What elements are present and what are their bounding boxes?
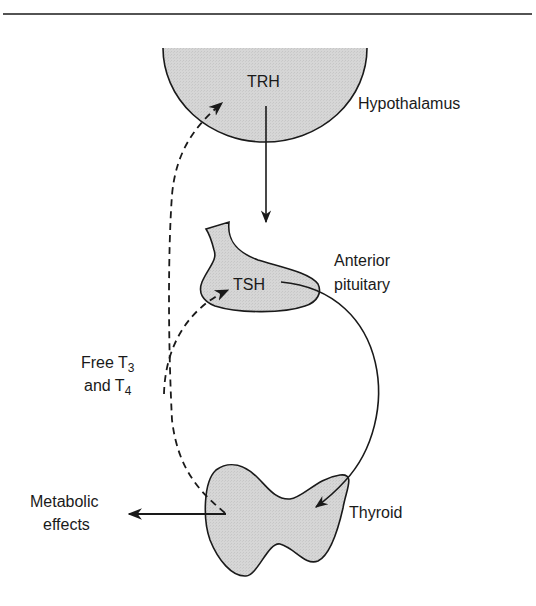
free-t3-label: Free T3 bbox=[81, 354, 135, 375]
pituitary-shape bbox=[201, 222, 320, 312]
thyroid-shape bbox=[205, 465, 349, 576]
trh-label: TRH bbox=[247, 73, 280, 90]
and-t4-label: and T4 bbox=[84, 377, 132, 398]
hypothalamus-label: Hypothalamus bbox=[358, 95, 460, 112]
tsh-label: TSH bbox=[233, 276, 265, 293]
anterior-label: Anterior bbox=[334, 252, 391, 269]
tsh-to-thyroid-arrow bbox=[281, 282, 379, 507]
effects-label: effects bbox=[43, 516, 90, 533]
hypothalamus-shape bbox=[163, 48, 367, 142]
thyroid-label: Thyroid bbox=[349, 504, 402, 521]
metabolic-label: Metabolic bbox=[30, 493, 98, 510]
thyroid-axis-diagram: TRH Hypothalamus TSH Anterior pituitary … bbox=[0, 0, 536, 606]
pituitary-label: pituitary bbox=[334, 276, 390, 293]
feedback-to-hypothalamus-arrow bbox=[169, 103, 225, 513]
